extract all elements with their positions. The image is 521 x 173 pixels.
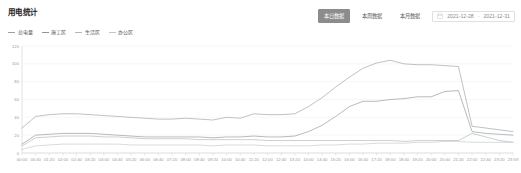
chart-series-line <box>22 141 513 149</box>
x-axis-tick-label: 12:00 <box>262 157 273 162</box>
x-axis-tick-label: 08:00 <box>180 157 191 162</box>
y-axis-tick-label: 40 <box>14 115 19 120</box>
range-button-week[interactable]: 本周数据 <box>356 9 388 23</box>
x-axis-tick-label: 10:40 <box>235 157 246 162</box>
panel-header: 用电统计 本日数据 本周数据 本月数据 2021-12-28 - 2021-12… <box>0 0 521 26</box>
date-range-separator: - <box>478 12 480 20</box>
legend-label: 施工区 <box>51 29 66 36</box>
legend-label: 生活区 <box>85 29 100 36</box>
x-axis-tick-label: 07:20 <box>167 157 178 162</box>
x-axis-tick-label: 04:40 <box>112 157 123 162</box>
y-axis-tick-label: 60 <box>14 97 19 102</box>
date-end-value[interactable]: 2021-12-31 <box>483 12 510 20</box>
x-axis-tick-label: 00:40 <box>30 157 41 162</box>
legend-swatch-icon <box>75 32 82 33</box>
x-axis-tick-label: 11:20 <box>249 157 260 162</box>
x-axis-tick-label: 06:00 <box>140 157 151 162</box>
x-axis-tick-label: 23:59 <box>508 157 519 162</box>
chart-series-line <box>22 60 513 131</box>
x-axis-tick-label: 16:40 <box>358 157 369 162</box>
x-axis-tick-label: 23:20 <box>494 157 505 162</box>
x-axis-tick-label: 09:20 <box>208 157 219 162</box>
x-axis-tick-label: 04:00 <box>99 157 110 162</box>
x-axis-tick-label: 05:20 <box>126 157 137 162</box>
date-start-value[interactable]: 2021-12-28 <box>447 12 474 20</box>
legend-item-construction[interactable]: 施工区 <box>42 29 67 36</box>
page-title: 用电统计 <box>8 8 37 18</box>
range-button-day[interactable]: 本日数据 <box>318 9 350 23</box>
range-button-month[interactable]: 本月数据 <box>394 9 426 23</box>
chart-canvas: 02040608010012000:0000:4001:2002:0002:40… <box>0 40 521 173</box>
x-axis-tick-label: 12:40 <box>276 157 287 162</box>
y-axis-tick-label: 80 <box>14 79 19 84</box>
x-axis-tick-label: 20:00 <box>426 157 437 162</box>
header-controls: 本日数据 本周数据 本月数据 2021-12-28 - 2021-12-31 <box>318 9 515 23</box>
x-axis-tick-label: 22:00 <box>467 157 478 162</box>
x-axis-tick-label: 13:20 <box>290 157 301 162</box>
y-axis-tick-label: 0 <box>17 151 20 156</box>
electricity-statistics-panel: 用电统计 本日数据 本周数据 本月数据 2021-12-28 - 2021-12… <box>0 0 521 173</box>
legend-label: 办公区 <box>118 29 133 36</box>
x-axis-tick-label: 18:40 <box>399 157 410 162</box>
y-axis-tick-label: 100 <box>12 61 20 66</box>
x-axis-tick-label: 15:20 <box>330 157 341 162</box>
legend-label: 总电量 <box>18 29 33 36</box>
x-axis-tick-label: 01:20 <box>44 157 55 162</box>
x-axis-tick-label: 19:20 <box>412 157 423 162</box>
x-axis-tick-label: 14:00 <box>303 157 314 162</box>
chart-legend: 总电量 施工区 生活区 办公区 <box>8 29 133 36</box>
x-axis-tick-label: 10:00 <box>221 157 232 162</box>
x-axis-tick-label: 02:00 <box>58 157 69 162</box>
legend-swatch-icon <box>8 32 15 33</box>
legend-item-office[interactable]: 办公区 <box>109 29 134 36</box>
x-axis-tick-label: 06:40 <box>153 157 164 162</box>
x-axis-tick-label: 18:00 <box>385 157 396 162</box>
x-axis-tick-label: 02:40 <box>71 157 82 162</box>
y-axis-tick-label: 20 <box>14 133 19 138</box>
date-range-picker[interactable]: 2021-12-28 - 2021-12-31 <box>432 11 515 22</box>
x-axis-tick-label: 00:00 <box>17 157 28 162</box>
legend-item-total[interactable]: 总电量 <box>8 29 33 36</box>
x-axis-tick-label: 21:20 <box>453 157 464 162</box>
legend-swatch-icon <box>42 32 49 33</box>
y-axis-tick-label: 120 <box>12 44 20 49</box>
legend-swatch-icon <box>109 32 116 33</box>
line-chart: 02040608010012000:0000:4001:2002:0002:40… <box>0 40 521 173</box>
x-axis-tick-label: 20:40 <box>440 157 451 162</box>
x-axis-tick-label: 22:40 <box>480 157 491 162</box>
calendar-icon <box>437 13 443 19</box>
x-axis-tick-label: 17:20 <box>371 157 382 162</box>
x-axis-tick-label: 08:40 <box>194 157 205 162</box>
x-axis-tick-label: 16:00 <box>344 157 355 162</box>
x-axis-tick-label: 14:40 <box>317 157 328 162</box>
x-axis-tick-label: 03:20 <box>85 157 96 162</box>
legend-item-living[interactable]: 生活区 <box>75 29 100 36</box>
